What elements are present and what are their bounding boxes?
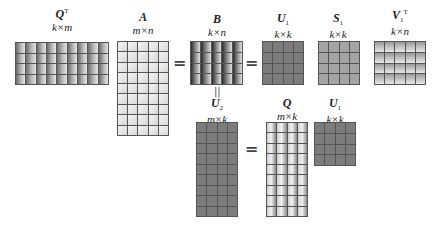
matrix-cell bbox=[395, 42, 404, 52]
matrix-cell bbox=[375, 42, 384, 52]
matrix-cell bbox=[138, 73, 147, 82]
matrix-cell bbox=[99, 54, 108, 64]
matrix-cell bbox=[340, 74, 349, 84]
matrix-cell bbox=[319, 64, 328, 74]
matrix-cell bbox=[47, 64, 56, 74]
matrix-cell bbox=[118, 63, 127, 72]
matrix-cell bbox=[37, 54, 46, 64]
matrix-cell bbox=[16, 54, 25, 64]
matrix-label-q: Q m×k bbox=[264, 97, 310, 122]
matrix-cell bbox=[118, 52, 127, 61]
matrix-cell bbox=[375, 74, 384, 84]
matrix-cell bbox=[99, 75, 108, 85]
matrix-cell bbox=[294, 64, 303, 74]
matrix-cell bbox=[191, 64, 200, 74]
matrix-dim-v1t: k×n bbox=[376, 26, 424, 37]
matrix-cell bbox=[57, 64, 66, 74]
matrix-cell bbox=[315, 155, 324, 165]
matrix-cell bbox=[350, 53, 359, 63]
matrix-cell bbox=[233, 74, 242, 84]
matrix-cell bbox=[159, 126, 168, 135]
matrix-cell bbox=[159, 52, 168, 61]
matrix-cell bbox=[159, 63, 168, 72]
matrix-cell bbox=[298, 196, 307, 205]
matrix-cell bbox=[16, 64, 25, 74]
matrix-dim-s1: k×k bbox=[316, 29, 360, 40]
matrix-cell bbox=[118, 84, 127, 93]
matrix-cell bbox=[207, 186, 216, 195]
matrix-cell bbox=[325, 145, 334, 155]
matrix-cell bbox=[78, 75, 87, 85]
matrix-u1b-grid bbox=[314, 122, 356, 166]
matrix-cell bbox=[118, 115, 127, 124]
matrix-cell bbox=[218, 196, 227, 205]
matrix-cell bbox=[191, 74, 200, 84]
matrix-cell bbox=[375, 64, 384, 74]
matrix-label-qt: QT k×m bbox=[40, 8, 84, 33]
matrix-cell bbox=[277, 144, 286, 153]
matrix-label-v1t: V1T k×n bbox=[376, 9, 424, 37]
matrix-cell bbox=[273, 53, 282, 63]
matrix-cell bbox=[201, 64, 210, 74]
matrix-cell bbox=[37, 64, 46, 74]
matrix-cell bbox=[288, 144, 297, 153]
matrix-cell bbox=[57, 43, 66, 53]
matrix-cell bbox=[228, 165, 237, 174]
matrix-cell bbox=[218, 207, 227, 216]
matrix-cell bbox=[138, 63, 147, 72]
matrix-cell bbox=[267, 154, 276, 163]
matrix-cell bbox=[346, 123, 355, 133]
matrix-cell bbox=[385, 42, 394, 52]
matrix-cell bbox=[267, 165, 276, 174]
matrix-cell bbox=[315, 134, 324, 144]
matrix-cell bbox=[218, 154, 227, 163]
matrix-cell bbox=[78, 43, 87, 53]
matrix-cell bbox=[267, 175, 276, 184]
matrix-cell bbox=[149, 126, 158, 135]
matrix-cell bbox=[325, 134, 334, 144]
matrix-dim-qt: k×m bbox=[40, 22, 84, 33]
matrix-cell bbox=[273, 64, 282, 74]
matrix-cell bbox=[284, 74, 293, 84]
matrix-u1-grid bbox=[262, 41, 304, 85]
matrix-cell bbox=[288, 165, 297, 174]
matrix-cell bbox=[212, 64, 221, 74]
matrix-cell bbox=[267, 133, 276, 142]
matrix-cell bbox=[350, 42, 359, 52]
matrix-cell bbox=[395, 74, 404, 84]
matrix-cell bbox=[212, 74, 221, 84]
matrix-cell bbox=[197, 165, 206, 174]
matrix-cell bbox=[197, 123, 206, 132]
matrix-cell bbox=[191, 53, 200, 63]
matrix-cell bbox=[128, 126, 137, 135]
equals-operator-3: = bbox=[245, 141, 258, 157]
matrix-cell bbox=[325, 123, 334, 133]
matrix-cell bbox=[99, 43, 108, 53]
matrix-cell bbox=[47, 75, 56, 85]
matrix-cell bbox=[218, 186, 227, 195]
matrix-cell bbox=[263, 42, 272, 52]
matrix-cell bbox=[159, 105, 168, 114]
matrix-cell bbox=[16, 43, 25, 53]
matrix-cell bbox=[277, 165, 286, 174]
matrix-cell bbox=[88, 75, 97, 85]
matrix-q-grid bbox=[266, 122, 308, 217]
matrix-cell bbox=[288, 154, 297, 163]
matrix-cell bbox=[298, 133, 307, 142]
matrix-cell bbox=[222, 64, 231, 74]
matrix-cell bbox=[329, 74, 338, 84]
matrix-name-u1: U1 bbox=[261, 12, 305, 27]
matrix-cell bbox=[16, 75, 25, 85]
matrix-cell bbox=[294, 74, 303, 84]
matrix-cell bbox=[207, 196, 216, 205]
matrix-cell bbox=[197, 175, 206, 184]
matrix-cell bbox=[47, 43, 56, 53]
matrix-cell bbox=[288, 175, 297, 184]
matrix-cell bbox=[197, 144, 206, 153]
matrix-dim-a: m×n bbox=[120, 25, 166, 36]
matrix-cell bbox=[159, 84, 168, 93]
matrix-cell bbox=[128, 73, 137, 82]
matrix-cell bbox=[395, 64, 404, 74]
matrix-cell bbox=[207, 133, 216, 142]
matrix-cell bbox=[138, 94, 147, 103]
